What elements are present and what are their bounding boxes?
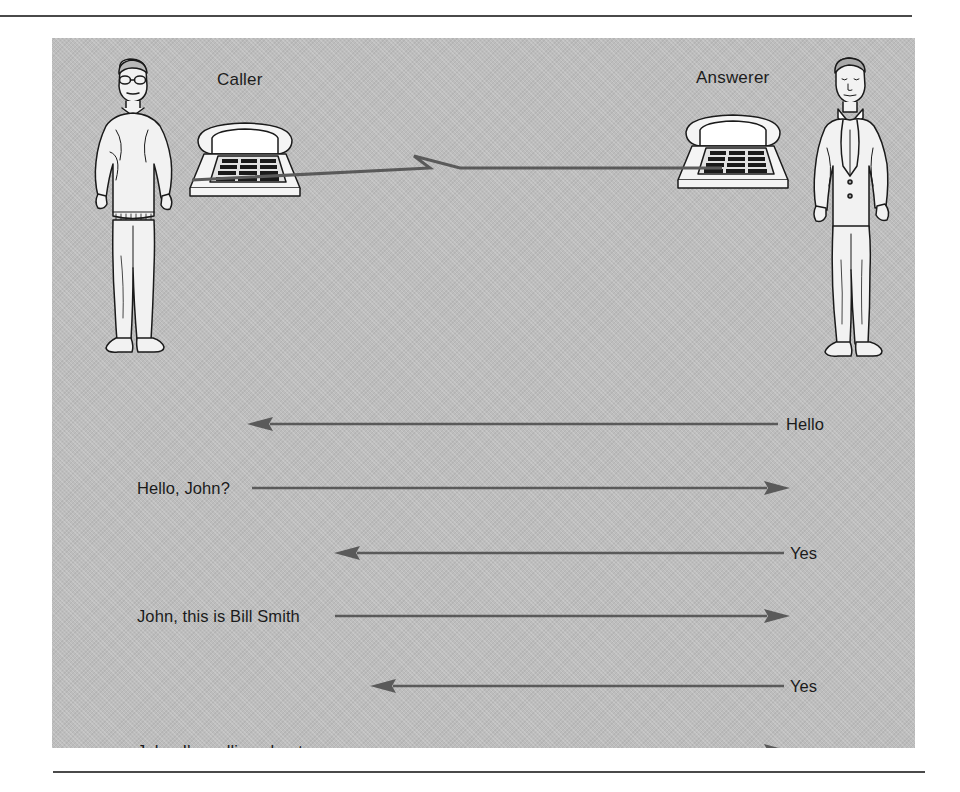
dialogue-row: Hello — [52, 411, 915, 437]
dialogue-label: Hello — [786, 411, 824, 437]
arrow-left-to-right-icon — [364, 738, 790, 748]
top-horizontal-rule — [0, 15, 912, 17]
telephone-scene: Caller Answerer — [52, 38, 915, 368]
arrow-left-to-right-icon — [335, 603, 790, 629]
answerer-role-label: Answerer — [696, 68, 769, 88]
dialogue-row: John, I'm calling about . . . — [52, 738, 915, 748]
telephone-wire-icon — [192, 138, 722, 218]
dialogue-row: Yes — [52, 540, 915, 566]
arrow-left-to-right-icon — [252, 475, 790, 501]
illustration-panel: Caller Answerer — [52, 38, 915, 748]
caller-role-label: Caller — [217, 70, 263, 90]
dialogue-sequence: Hello Hello, John? Yes John, this is Bil… — [52, 368, 915, 748]
dialogue-row: Yes — [52, 673, 915, 699]
dialogue-label: John, I'm calling about . . . — [137, 738, 331, 748]
dialogue-label: Hello, John? — [137, 475, 230, 501]
dialogue-label: Yes — [790, 673, 817, 699]
arrow-right-to-left-icon — [370, 673, 784, 699]
standing-man-suit-tie-icon — [797, 54, 905, 360]
standing-man-sweater-glasses-icon — [80, 56, 188, 356]
dialogue-row: Hello, John? — [52, 475, 915, 501]
bottom-horizontal-rule — [53, 771, 925, 773]
dialogue-label: John, this is Bill Smith — [137, 603, 300, 629]
dialogue-row: John, this is Bill Smith — [52, 603, 915, 629]
arrow-right-to-left-icon — [334, 540, 784, 566]
arrow-right-to-left-icon — [247, 411, 778, 437]
dialogue-label: Yes — [790, 540, 817, 566]
